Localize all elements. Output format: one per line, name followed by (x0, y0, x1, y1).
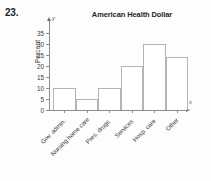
y-tick-label: 15 (30, 74, 44, 81)
bar (166, 57, 189, 110)
x-tick (132, 110, 133, 113)
x-axis-label: Other (164, 117, 180, 133)
bar (53, 88, 76, 110)
y-tick (46, 44, 49, 45)
y-tick-label: 30 (30, 41, 44, 48)
x-tick (154, 110, 155, 113)
y-axis-line (49, 21, 50, 111)
y-tick (46, 33, 49, 34)
y-tick-label: 25 (30, 52, 44, 59)
x-tick (87, 110, 88, 113)
bar (76, 99, 99, 110)
y-tick (46, 66, 49, 67)
bar (98, 88, 121, 110)
y-tick-label: 35 (30, 30, 44, 37)
y-tick-label: 5 (30, 96, 44, 103)
y-tick (46, 55, 49, 56)
bar-chart-plot: y x Percent 05101520253035 Gov. admin.Nu… (0, 0, 211, 181)
x-tick (177, 110, 178, 113)
x-axis-line (49, 110, 186, 111)
y-tick-label: 0 (30, 107, 44, 114)
x-tick (109, 110, 110, 113)
y-tick (46, 99, 49, 100)
y-tick-label: 20 (30, 63, 44, 70)
y-tick (46, 110, 49, 111)
x-axis-label: Services (113, 117, 134, 138)
figure-container: 23. American Health Dollar y x Percent 0… (0, 0, 211, 181)
y-axis-variable-label: y (52, 15, 55, 21)
x-tick (64, 110, 65, 113)
y-tick-label: 10 (30, 85, 44, 92)
bar (121, 66, 144, 110)
y-tick (46, 88, 49, 89)
bar (143, 44, 166, 110)
y-tick (46, 77, 49, 78)
y-axis-arrow-icon (47, 17, 51, 21)
x-axis-variable-label: x (189, 99, 192, 105)
x-axis-label: Hosp. care (131, 117, 157, 143)
